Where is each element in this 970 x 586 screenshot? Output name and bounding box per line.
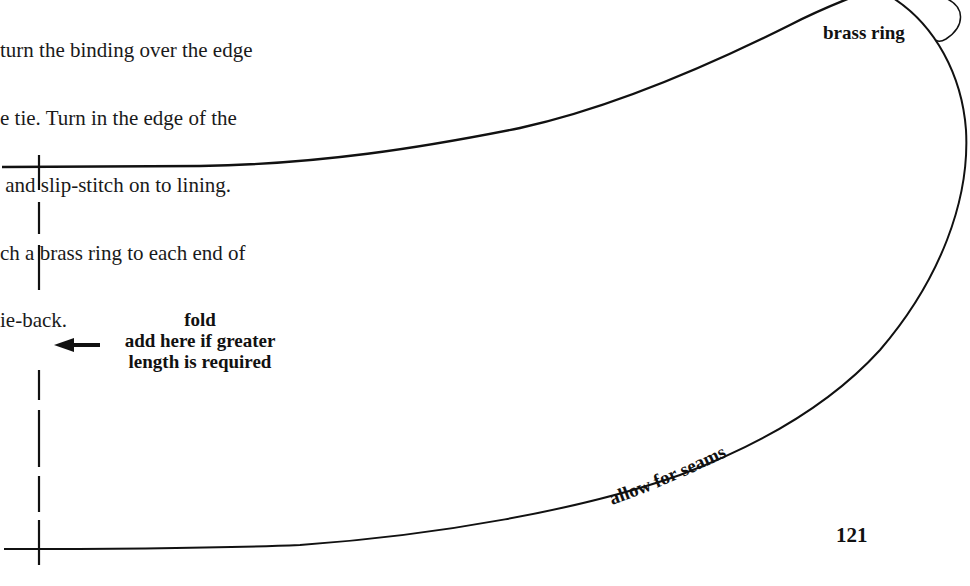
fold-annotation: fold add here if greater length is requi… (100, 309, 300, 372)
tie-back-pattern-outline: allow for seams (0, 0, 970, 586)
left-arrow-icon (54, 338, 100, 352)
pattern-right-curve (4, 0, 966, 549)
extend-note-line1: add here if greater (100, 330, 300, 351)
seam-allowance-label: allow for seams (606, 441, 729, 509)
brass-ring-label: brass ring (823, 22, 905, 44)
page-number: 121 (836, 523, 868, 548)
fold-label: fold (100, 309, 300, 330)
extend-note-line2: length is required (100, 351, 300, 372)
pattern-outline-path (2, 0, 850, 167)
brass-ring-icon (936, 0, 961, 41)
